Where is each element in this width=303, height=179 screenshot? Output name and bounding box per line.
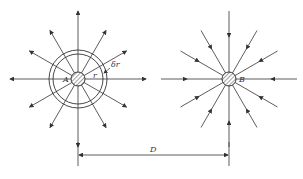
inflow-ray: [235, 83, 277, 108]
outflow-ray: [50, 85, 75, 127]
inflow-ray: [233, 85, 258, 127]
inflow-ray: [181, 83, 223, 108]
outflow-ray: [50, 31, 75, 73]
outflow-ray: [84, 83, 126, 108]
outflow-ray: [30, 83, 72, 108]
source-core: [71, 72, 85, 86]
outflow-ray: [30, 51, 72, 76]
outflow-ray: [82, 85, 107, 127]
thickness-label: δr: [111, 60, 121, 69]
source-sink-diagram: A B r δr D: [0, 0, 303, 179]
inflow-ray: [181, 51, 223, 76]
source-label: A: [62, 75, 69, 84]
outflow-ray: [82, 31, 107, 73]
inflow-ray: [201, 85, 226, 127]
sink-core: [222, 72, 236, 86]
sink-label: B: [238, 75, 245, 84]
inflow-ray: [233, 31, 258, 73]
inflow-ray: [201, 31, 226, 73]
dimension-label: D: [149, 145, 157, 154]
inflow-ray: [235, 51, 277, 76]
